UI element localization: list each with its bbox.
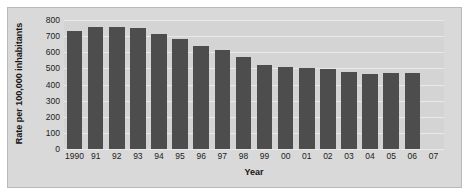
bar	[130, 28, 146, 149]
bar	[151, 34, 167, 149]
bar	[405, 73, 421, 149]
y-axis-tick-label: 600	[36, 48, 60, 57]
x-axis-tick-label: 02	[317, 151, 338, 162]
x-axis-tick-label: 97	[212, 151, 233, 162]
bar	[299, 68, 315, 149]
y-axis-tick-label: 300	[36, 97, 60, 106]
x-axis-tick-label: 03	[338, 151, 359, 162]
bar	[109, 27, 125, 149]
chart-figure: Rate per 100,000 inhabitants 01002003004…	[0, 0, 469, 195]
x-axis-tick-label: 99	[254, 151, 275, 162]
y-axis-tick-label: 200	[36, 113, 60, 122]
y-axis-tick-label: 400	[36, 81, 60, 90]
bar	[215, 50, 231, 149]
x-axis-tick-label: 01	[296, 151, 317, 162]
gridline	[64, 149, 444, 150]
y-axis-tick-label: 100	[36, 129, 60, 138]
bar	[67, 31, 83, 149]
x-axis-tick-label: 93	[127, 151, 148, 162]
y-axis-tick-label: 700	[36, 32, 60, 41]
x-axis-tick-label: 91	[85, 151, 106, 162]
x-axis-tick-label: 07	[423, 151, 444, 162]
x-axis-tick-label: 98	[233, 151, 254, 162]
bar	[383, 73, 399, 149]
bar	[172, 39, 188, 149]
x-axis-tick-label: 92	[106, 151, 127, 162]
bar	[88, 27, 104, 149]
x-axis-tick-label: 04	[360, 151, 381, 162]
x-axis-tick-label: 96	[191, 151, 212, 162]
bar	[257, 65, 273, 149]
bar	[362, 74, 378, 149]
x-axis-tick-labels: 19909192939495969798990001020304050607	[64, 151, 444, 163]
y-axis-tick-label: 500	[36, 64, 60, 73]
x-axis-title: Year	[64, 167, 444, 177]
bar	[320, 69, 336, 149]
x-axis-tick-label: 05	[381, 151, 402, 162]
x-axis-tick-label: 00	[275, 151, 296, 162]
bar-series	[64, 20, 444, 149]
x-axis-tick-label: 94	[148, 151, 169, 162]
y-axis-tick-label: 800	[36, 16, 60, 25]
plot-area	[64, 20, 444, 149]
y-axis-tick-label: 0	[36, 145, 60, 154]
bar	[278, 67, 294, 149]
x-axis-tick-label: 95	[170, 151, 191, 162]
bar	[236, 57, 252, 149]
y-axis-title: Rate per 100,000 inhabitants	[14, 15, 24, 152]
y-axis-tick-labels: 0100200300400500600700800	[34, 20, 60, 149]
x-axis-tick-label: 06	[402, 151, 423, 162]
bar	[193, 46, 209, 149]
bar	[341, 72, 357, 149]
x-axis-tick-label: 1990	[64, 151, 85, 162]
